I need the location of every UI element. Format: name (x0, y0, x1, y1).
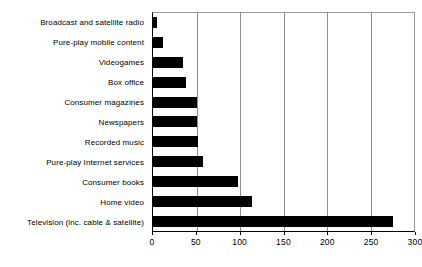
x-axis-tick-mark (196, 232, 197, 235)
category-label-cell: Television (inc. cable & satellite) (0, 212, 148, 232)
bar-row (153, 33, 414, 53)
x-axis-tick-label: 200 (320, 237, 335, 247)
x-axis-tick-mark (371, 232, 372, 235)
bar-row (153, 152, 414, 172)
x-axis-tick-label: 150 (276, 237, 291, 247)
category-label: Recorded music (85, 138, 144, 147)
x-axis-tick-label: 50 (191, 237, 201, 247)
x-axis-tick-mark (240, 232, 241, 235)
category-label-cell: Consumer books (0, 172, 148, 192)
bar (153, 136, 198, 147)
bar (153, 37, 163, 48)
x-axis-tick-label: 0 (150, 237, 155, 247)
category-label: Television (inc. cable & satellite) (27, 218, 144, 227)
category-label: Broadcast and satellite radio (40, 18, 144, 27)
category-label: Consumer books (82, 178, 144, 187)
bar-row (153, 112, 414, 132)
bar (153, 176, 238, 187)
x-axis-tick-label: 300 (408, 237, 422, 247)
bar (153, 196, 252, 207)
category-label: Box office (108, 78, 144, 87)
category-label-cell: Pure-play Internet services (0, 152, 148, 172)
y-axis-category-labels: Broadcast and satellite radioPure-play m… (0, 12, 148, 232)
category-label: Videogames (99, 58, 144, 67)
x-axis: 050100150200250300 (152, 232, 416, 262)
bar (153, 57, 183, 68)
category-label-cell: Newspapers (0, 112, 148, 132)
x-axis-tick-mark (284, 232, 285, 235)
plot-area (152, 12, 415, 232)
category-label: Pure-play mobile content (53, 38, 144, 47)
bar (153, 17, 157, 28)
bar (153, 77, 186, 88)
category-label: Home video (100, 198, 144, 207)
category-label-cell: Recorded music (0, 132, 148, 152)
category-label-cell: Pure-play mobile content (0, 32, 148, 52)
bar-row (153, 172, 414, 192)
bar (153, 97, 197, 108)
category-label-cell: Home video (0, 192, 148, 212)
x-axis-tick-label: 100 (232, 237, 247, 247)
category-label-cell: Box office (0, 72, 148, 92)
category-label-cell: Videogames (0, 52, 148, 72)
bars-layer (153, 13, 414, 231)
x-axis-tick-mark (152, 232, 153, 235)
category-label: Pure-play Internet services (46, 158, 144, 167)
bar (153, 116, 197, 127)
x-axis-tick-mark (327, 232, 328, 235)
category-label: Consumer magazines (64, 98, 144, 107)
bar-row (153, 53, 414, 73)
bar-row (153, 13, 414, 33)
bar-row (153, 132, 414, 152)
category-label: Newspapers (99, 118, 144, 127)
category-label-cell: Consumer magazines (0, 92, 148, 112)
bar-row (153, 191, 414, 211)
bar (153, 156, 203, 167)
bar-row (153, 211, 414, 231)
x-axis-tick-label: 250 (364, 237, 379, 247)
x-axis-tick-mark (415, 232, 416, 235)
bar-row (153, 72, 414, 92)
bar (153, 216, 393, 227)
category-label-cell: Broadcast and satellite radio (0, 12, 148, 32)
bar-row (153, 92, 414, 112)
